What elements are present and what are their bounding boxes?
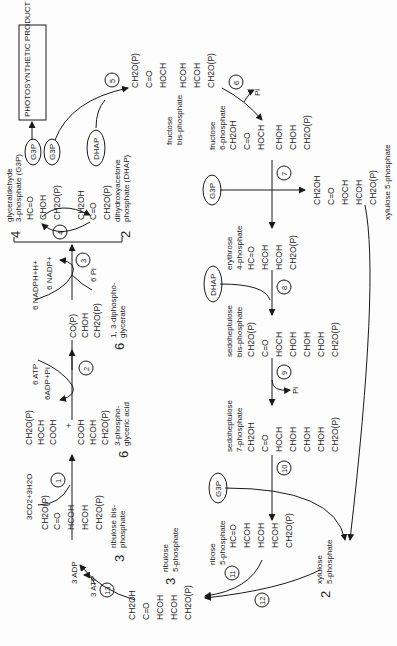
svg-text:CO(P): CO(P) [68, 314, 78, 338]
svg-text:sedoheptulose: sedoheptulose [225, 399, 234, 452]
step-7: 7 [277, 166, 291, 180]
svg-text:glyceric acid: glyceric acid [122, 402, 131, 446]
svg-text:HCOH: HCOH [260, 245, 270, 270]
g3p-badge: G3P [25, 139, 41, 165]
dhap-badge: DHAP [87, 130, 105, 166]
molecule-rubp: CH2O(P) C=O HCOH HCOH CH2O(P) 3 ribulose… [40, 495, 127, 562]
svg-text:6-phosphate: 6-phosphate [218, 105, 227, 150]
svg-text:HOCH: HOCH [340, 180, 350, 205]
svg-text:fructose: fructose [165, 116, 174, 145]
svg-text:CH2O(P): CH2O(P) [40, 495, 50, 530]
svg-text:G3P: G3P [208, 183, 217, 199]
svg-text:12: 12 [258, 597, 267, 605]
svg-text:5-phosphate: 5-phosphate [325, 539, 334, 584]
svg-text:8: 8 [280, 286, 289, 290]
svg-text:dihydroxyacetone: dihydroxyacetone [113, 159, 122, 222]
svg-text:G3P: G3P [48, 144, 57, 160]
pi-label: 6 Pi [89, 268, 98, 282]
svg-text:C=O: C=O [260, 339, 270, 357]
svg-text:HC=O: HC=O [228, 524, 238, 548]
nadph-label: 6 NADPH+H+ [31, 260, 40, 310]
step-1: 1 [51, 473, 65, 487]
svg-text:CH2O(P): CH2O(P) [302, 115, 312, 150]
svg-text:2: 2 [318, 591, 333, 598]
svg-text:HOCH: HOCH [274, 332, 284, 357]
svg-text:10: 10 [280, 465, 289, 473]
svg-text:C=O: C=O [260, 434, 270, 452]
bracket [14, 237, 122, 242]
svg-text:C=O: C=O [52, 512, 62, 530]
svg-text:CH2O(P): CH2O(P) [206, 53, 216, 88]
svg-text:CH2O(P): CH2O(P) [52, 185, 62, 220]
step-3: 3 [76, 253, 90, 267]
arrow-nadph [35, 260, 74, 300]
atp-label: 6 ATP [31, 364, 40, 385]
svg-text:4: 4 [56, 231, 65, 235]
svg-text:bis-phosphate: bis-phosphate [235, 306, 244, 357]
svg-text:COOH: COOH [48, 420, 58, 446]
svg-text:9: 9 [280, 371, 289, 375]
svg-text:HCOH: HCOH [256, 523, 266, 548]
svg-text:CH2O(P): CH2O(P) [94, 495, 104, 530]
svg-text:CH2O(P): CH2O(P) [130, 53, 140, 88]
arrow-dhap-in-8 [220, 284, 270, 300]
svg-text:HCOH: HCOH [354, 180, 364, 205]
svg-text:CH2OH: CH2OH [246, 422, 256, 452]
adp-label-13: 3 ADP [70, 561, 79, 584]
svg-text:3: 3 [163, 578, 178, 585]
svg-text:CHOH: CHOH [274, 125, 284, 150]
svg-text:COOH: COOH [76, 420, 86, 446]
svg-text:5-phosphate: 5-phosphate [171, 527, 180, 572]
svg-text:CH2O(P): CH2O(P) [102, 185, 112, 220]
svg-text:3-phospho-: 3-phospho- [113, 405, 122, 446]
svg-text:CHOH: CHOH [302, 332, 312, 357]
molecule-ru5p: CH2OH C=O HCOH HCOH CH2O(P) 3 ribulose 5… [127, 527, 193, 620]
molecule-xylulose-5p-2: 2 xylulose 5-phosphate [315, 539, 334, 598]
svg-text:C=O: C=O [141, 602, 151, 620]
step-9: 9 [277, 365, 291, 379]
svg-text:fructose: fructose [208, 121, 217, 150]
svg-text:HCOH: HCOH [178, 63, 188, 88]
step-4: 4 [53, 225, 67, 239]
svg-text:CH2OH: CH2OH [127, 590, 137, 620]
svg-text:xylulose: xylulose [315, 555, 324, 584]
svg-text:CH2OH: CH2OH [312, 175, 322, 205]
svg-text:1: 1 [54, 479, 63, 483]
svg-text:6: 6 [232, 81, 241, 85]
svg-text:1, 3-diphospho-: 1, 3-diphospho- [109, 282, 118, 338]
calvin-cycle-diagram: PHOTOSYNTHETIC PRODUCT G3P G3P DHAP G3P … [0, 0, 397, 646]
step-6: 6 [229, 75, 243, 89]
svg-text:CHOH: CHOH [80, 313, 90, 338]
g3p-badge: G3P [203, 175, 221, 205]
svg-text:HOCH: HOCH [256, 125, 266, 150]
svg-text:CH2O(P): CH2O(P) [24, 410, 34, 445]
svg-text:3: 3 [79, 259, 88, 263]
svg-text:ribulose: ribulose [161, 543, 170, 572]
svg-text:HCOH: HCOH [270, 523, 280, 548]
svg-text:2: 2 [118, 231, 133, 238]
step-13: 13 [100, 583, 114, 597]
svg-text:7: 7 [280, 172, 289, 176]
svg-text:C=O: C=O [326, 187, 336, 205]
svg-text:CH2O(P): CH2O(P) [288, 235, 298, 270]
svg-text:CH2O(P): CH2O(P) [100, 410, 110, 445]
molecule-xylulose-5p: CH2OH C=O HOCH HCOH CH2O(P) xylulose 5-p… [312, 144, 392, 220]
svg-text:CH2O(P): CH2O(P) [284, 513, 294, 548]
arrow-step4-reverse [42, 222, 90, 232]
svg-text:glycerate: glycerate [118, 305, 127, 338]
svg-text:HC=O: HC=O [25, 196, 35, 220]
svg-text:C=O: C=O [242, 132, 252, 150]
pi-label-6: Pi [253, 89, 262, 96]
svg-text:2: 2 [82, 367, 91, 371]
svg-text:3-phosphate (G3P): 3-phosphate (G3P) [14, 154, 23, 222]
svg-text:CH2O(P): CH2O(P) [330, 322, 340, 357]
svg-text:C=O: C=O [88, 202, 98, 220]
svg-text:CHOH: CHOH [288, 332, 298, 357]
svg-text:CH2OH: CH2OH [76, 190, 86, 220]
svg-text:G3P: G3P [29, 144, 38, 160]
svg-text:CHOH: CHOH [302, 427, 312, 452]
svg-text:HCOH: HCOH [66, 505, 76, 530]
molecule-r5p: ribose 5-phosphate HC=O HCOH HCOH HCOH C… [208, 513, 294, 565]
svg-text:CHOH: CHOH [316, 332, 326, 357]
molecule-pga: CH2O(P) HOCH COOH + COOH HCOH CH2O(P) 6 … [24, 402, 131, 458]
